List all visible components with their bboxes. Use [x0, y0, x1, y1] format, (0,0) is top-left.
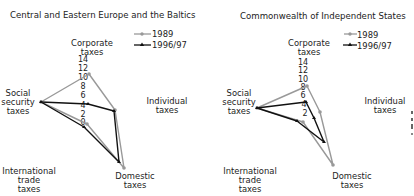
series-1996-cis	[255, 100, 326, 143]
legend-1996-swatch	[134, 43, 151, 47]
series-1996-cee	[39, 100, 121, 163]
legend-1989-swatch	[134, 32, 151, 35]
cropped-edge-fragments	[411, 111, 413, 135]
legend-1996-swatch	[343, 43, 357, 47]
legend-1989-swatch	[344, 32, 357, 35]
series-1989-cis	[255, 84, 335, 167]
radar-plots	[0, 0, 414, 196]
